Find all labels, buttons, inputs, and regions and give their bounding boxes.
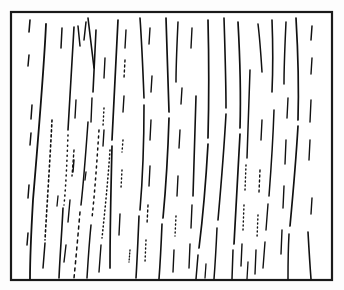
- texture-stroke: [30, 133, 31, 145]
- texture-stroke: [283, 186, 284, 208]
- texture-stroke: [311, 26, 312, 40]
- texture-stroke: [29, 20, 30, 32]
- texture-stroke: [232, 250, 233, 279]
- texture-stroke: [261, 120, 262, 140]
- texture-figure-svg: [0, 0, 344, 290]
- texture-stroke: [104, 58, 105, 78]
- texture-stroke: [91, 98, 92, 122]
- texture-stroke: [73, 160, 74, 172]
- texture-stroke: [309, 140, 310, 160]
- texture-stroke: [123, 96, 124, 112]
- texture-stroke: [75, 100, 76, 118]
- texture-stroke: [311, 58, 312, 74]
- texture-stroke: [150, 120, 151, 140]
- texture-stroke: [149, 28, 150, 44]
- texture-stroke: [125, 30, 126, 48]
- texture-stroke: [103, 130, 104, 146]
- texture-stroke: [119, 214, 120, 235]
- texture-stroke: [177, 176, 178, 196]
- texture-stroke: [151, 76, 152, 92]
- texture-stroke: [311, 198, 312, 214]
- texture-stroke: [28, 185, 29, 198]
- texture-stroke: [241, 244, 242, 266]
- texture-stroke: [181, 88, 182, 104]
- texture-stroke: [287, 98, 288, 118]
- texture-stroke: [310, 100, 311, 122]
- texture-stroke: [255, 250, 256, 274]
- figure-frame-border: [11, 12, 332, 280]
- texture-stroke: [189, 244, 190, 268]
- texture-stroke: [281, 230, 282, 254]
- texture-stroke: [28, 55, 29, 66]
- texture-stroke: [191, 205, 192, 228]
- texture-stroke: [31, 105, 32, 119]
- figure-root: [0, 0, 344, 290]
- texture-stroke: [173, 250, 174, 272]
- texture-stroke: [272, 20, 273, 92]
- texture-stroke: [191, 28, 192, 48]
- texture-stroke: [149, 166, 150, 186]
- texture-stroke: [61, 28, 62, 48]
- texture-stroke: [208, 20, 209, 138]
- texture-stroke: [27, 233, 28, 245]
- texture-stroke: [285, 140, 286, 164]
- texture-stroke: [179, 130, 180, 148]
